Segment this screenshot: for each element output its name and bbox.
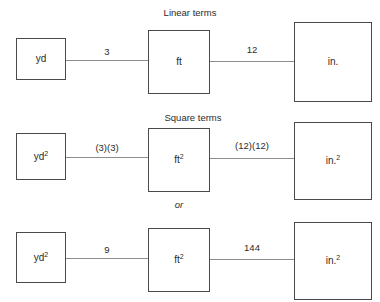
node-in: in.: [294, 22, 372, 102]
unit-conversion-diagram: Linear terms yd 3 ft 12 in. Square terms…: [0, 0, 380, 302]
node-yd-label: yd: [36, 54, 47, 64]
edge-label-ft-to-in: 12: [235, 45, 269, 55]
node-ft: ft: [148, 30, 210, 94]
connector-ft2-to-in2-alt: [210, 259, 294, 260]
node-in2-alt: in.2: [294, 222, 372, 300]
edge-label-ft2-to-in2: (12)(12): [222, 141, 282, 151]
node-ft-label: ft: [176, 57, 182, 67]
node-yd2-alt-label: yd2: [34, 253, 48, 263]
node-in2-label: in.2: [326, 156, 340, 166]
connector-yd2-to-ft2: [66, 157, 148, 158]
node-ft2-alt: ft2: [148, 228, 210, 292]
node-yd: yd: [16, 38, 66, 80]
node-in2-alt-label: in.2: [326, 256, 340, 266]
edge-label-ft2-to-in2-alt: 144: [233, 243, 271, 253]
node-yd2-label: yd2: [34, 152, 48, 162]
node-yd2-alt: yd2: [16, 232, 66, 283]
connector-yd-to-ft: [66, 60, 148, 61]
node-ft2-label: ft2: [174, 155, 183, 165]
edge-label-yd-to-ft: 3: [90, 47, 124, 57]
edge-label-yd2-to-ft2-alt: 9: [92, 245, 122, 255]
node-ft2: ft2: [148, 128, 210, 192]
node-in2: in.2: [294, 122, 372, 200]
node-in-label: in.: [328, 57, 339, 67]
separator-or-label: or: [155, 200, 203, 210]
connector-ft-to-in: [210, 61, 294, 62]
node-ft2-alt-label: ft2: [174, 255, 183, 265]
edge-label-yd2-to-ft2: (3)(3): [80, 143, 134, 153]
node-yd2: yd2: [16, 133, 66, 180]
connector-yd2-to-ft2-alt: [66, 258, 148, 259]
row-square-caption: Square terms: [143, 113, 243, 123]
connector-ft2-to-in2: [210, 158, 294, 159]
row-linear-caption: Linear terms: [143, 8, 237, 18]
